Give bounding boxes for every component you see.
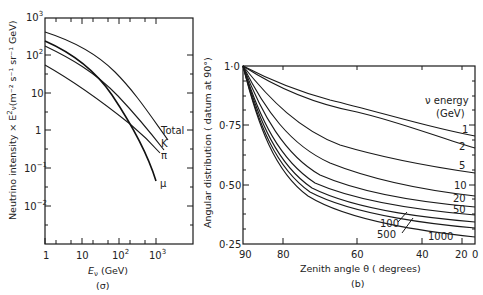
curve-mu: [45, 41, 156, 181]
svg-text:1: 1: [43, 250, 49, 261]
svg-text:10−2: 10−2: [24, 199, 47, 212]
svg-text:20: 20: [455, 249, 468, 260]
plot-a-panel-label: (σ): [96, 280, 109, 291]
panel-a: 103 102 10 1 10−1 10−2 1 10 102 103 Eν (…: [6, 10, 193, 291]
curve-50gev: [243, 66, 475, 215]
svg-text:102: 102: [112, 248, 129, 261]
svg-text:20: 20: [453, 193, 466, 204]
svg-text:1: 1: [462, 124, 468, 135]
svg-text:60: 60: [351, 249, 364, 260]
plot-a-y-ticks: [45, 55, 193, 225]
svg-text:0·25: 0·25: [219, 239, 241, 250]
plot-b-y-axis-label: Angular distribution ( datum at 90°): [202, 57, 213, 228]
plot-b-y-tick-labels: 1·0 0·75 0·50 0·25: [219, 61, 241, 250]
svg-text:40: 40: [416, 249, 429, 260]
legend-unit: (GeV): [436, 108, 465, 119]
plot-b-x-ticks: [283, 66, 462, 244]
panel-b: 1·0 0·75 0·50 0·25 90 80 60 40 20 0 Zeni…: [202, 57, 478, 289]
svg-text:10−1: 10−1: [24, 161, 47, 174]
plot-a-x-axis-label: Eν (GeV): [88, 265, 128, 278]
plot-b-panel-label: (b): [351, 278, 364, 289]
label-total: Total: [160, 125, 184, 136]
svg-text:90: 90: [239, 249, 252, 260]
svg-text:1: 1: [35, 125, 41, 136]
svg-text:100: 100: [380, 218, 399, 229]
svg-text:102: 102: [26, 48, 43, 61]
svg-text:10: 10: [31, 88, 44, 99]
svg-text:500: 500: [377, 229, 396, 240]
svg-text:1·0: 1·0: [224, 61, 240, 72]
svg-text:50: 50: [453, 204, 466, 215]
svg-text:103: 103: [149, 248, 166, 261]
label-k: K: [161, 138, 168, 149]
curve-total: [45, 32, 168, 140]
curve-pi: [45, 65, 160, 153]
curve-100gev: [243, 66, 475, 222]
figure: 103 102 10 1 10−1 10−2 1 10 102 103 Eν (…: [0, 0, 483, 295]
plot-a-y-tick-labels: 103 102 10 1 10−1 10−2: [24, 10, 47, 212]
svg-text:2: 2: [459, 141, 465, 152]
svg-text:0·50: 0·50: [219, 180, 241, 191]
svg-text:0·75: 0·75: [219, 120, 241, 131]
plot-a-x-tick-labels: 1 10 102 103: [43, 248, 166, 261]
plot-b-x-tick-labels: 90 80 60 40 20 0: [239, 249, 478, 260]
svg-text:1000: 1000: [428, 231, 453, 242]
svg-text:10: 10: [454, 180, 467, 191]
plot-a-x-ticks: [45, 18, 156, 244]
plot-a-y-axis-label: Neutrino intensity × E2ν(m⁻² s⁻¹ sr⁻¹ Ge…: [6, 21, 18, 220]
plot-b-x-axis-label: Zenith angle θ ( degrees): [300, 263, 421, 274]
svg-text:5: 5: [459, 160, 465, 171]
svg-text:10: 10: [76, 250, 89, 261]
label-pi: π: [161, 150, 167, 161]
legend-title: ν energy: [425, 95, 469, 106]
curve-k: [45, 46, 164, 150]
svg-text:103: 103: [26, 10, 43, 23]
svg-text:80: 80: [277, 249, 290, 260]
svg-text:0: 0: [472, 249, 478, 260]
label-mu: μ: [160, 178, 167, 189]
